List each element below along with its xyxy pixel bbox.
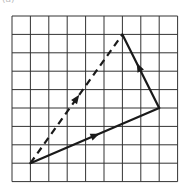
- grid-lines: [12, 16, 178, 182]
- grid-diagram: [0, 0, 186, 193]
- arrowhead-icon: [90, 130, 101, 140]
- vector-triangle: [30, 34, 159, 163]
